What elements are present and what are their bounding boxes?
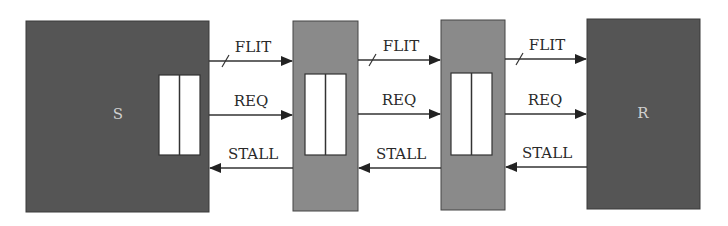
relay-station-2: [441, 20, 505, 210]
receiver-label: R: [637, 104, 649, 122]
req-label: REQ: [528, 91, 563, 109]
stall-label: STALL: [376, 145, 426, 163]
stall-label: STALL: [522, 144, 572, 162]
relay2-buffer: [451, 73, 492, 155]
sender-buffer: [159, 75, 200, 155]
relay1-buffer: [305, 74, 346, 155]
sender-label: S: [113, 105, 123, 123]
receiver-block: R: [587, 19, 700, 209]
link-relay1-relay2: FLIT REQ STALL: [358, 37, 441, 168]
link-relay2-receiver: FLIT REQ STALL: [505, 36, 587, 167]
flit-label: FLIT: [383, 37, 419, 55]
sender-block: S: [26, 21, 209, 212]
req-label: REQ: [234, 92, 269, 110]
stall-label: STALL: [228, 145, 278, 163]
link-sender-relay1: FLIT REQ STALL: [209, 38, 293, 168]
pipeline-diagram: S R FLIT REQ STALL: [0, 0, 728, 226]
req-label: REQ: [382, 91, 417, 109]
flit-label: FLIT: [235, 38, 271, 56]
flit-label: FLIT: [529, 36, 565, 54]
relay-station-1: [293, 21, 358, 211]
